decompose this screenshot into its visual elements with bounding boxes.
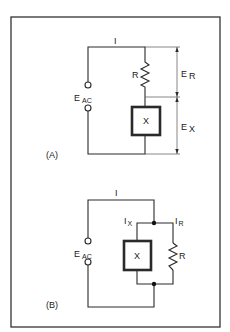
- node-dot-icon: [152, 282, 156, 286]
- resistor-label-a: R: [132, 70, 139, 80]
- node-dot-icon: [152, 221, 156, 225]
- terminal-icon: [85, 82, 91, 88]
- voltage-r-label: ER: [181, 69, 196, 81]
- terminal-icon: [85, 238, 91, 244]
- source-label-a: EAC: [74, 93, 92, 104]
- current-r-label: IR: [175, 216, 184, 227]
- resistor-icon: [169, 243, 177, 270]
- voltage-x-label: EX: [181, 122, 195, 134]
- diagram-a-series: [85, 47, 180, 154]
- reactance-label-b: X: [134, 251, 140, 261]
- source-label-b: EAC: [74, 249, 92, 260]
- wire-b-top: [88, 200, 154, 238]
- resistor-label-b: R: [179, 251, 186, 261]
- current-x-label: IX: [124, 216, 133, 227]
- resistor-icon: [141, 60, 149, 107]
- current-label-a: I: [114, 36, 117, 46]
- diagram-a-label: (A): [46, 150, 58, 160]
- circuit-figure: I EAC R X ER EX (A) I EAC IX IR X R (B): [0, 0, 230, 332]
- diagram-b-parallel: [85, 200, 177, 307]
- terminal-icon: [85, 105, 91, 111]
- figure-frame: [11, 17, 220, 327]
- current-label-b: I: [115, 188, 118, 198]
- reactance-label-a: X: [143, 116, 149, 126]
- diagram-b-label: (B): [46, 300, 58, 310]
- wire-b-branch-bottom: [137, 270, 173, 284]
- dimension-lines: [145, 47, 180, 154]
